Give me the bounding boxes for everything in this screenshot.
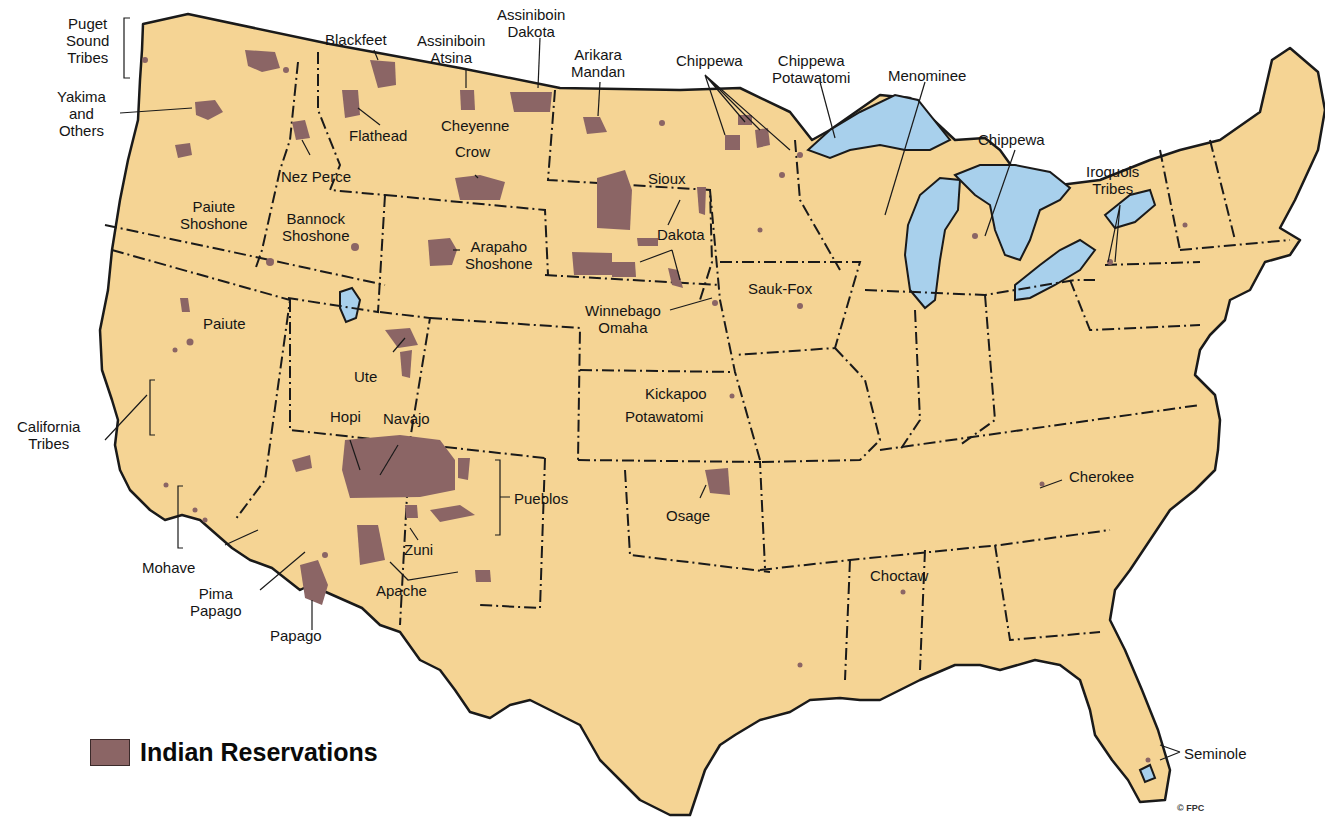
- reservation-rosebud: [612, 262, 636, 277]
- label-crow: Crow: [455, 143, 490, 160]
- label-pueblos: Pueblos: [514, 490, 568, 507]
- label-dakota: Dakota: [657, 226, 705, 243]
- label-seminole: Seminole: [1184, 745, 1247, 762]
- label-hopi: Hopi: [330, 408, 361, 425]
- label-choctaw: Choctaw: [870, 567, 928, 584]
- reservation-pine-ridge: [572, 252, 612, 275]
- label-chippewa-potawatomi: ChippewaPotawatomi: [772, 52, 850, 86]
- reservation-fort-peck: [510, 92, 552, 112]
- label-arikara-mandan: ArikaraMandan: [571, 46, 625, 80]
- label-bannock-shoshone: BannockShoshone: [282, 210, 350, 244]
- label-cherokee: Cherokee: [1069, 468, 1134, 485]
- label-nez-perce: Nez Perce: [281, 168, 351, 185]
- label-puget-sound-tribes: PugetSoundTribes: [66, 15, 109, 66]
- reservation-zuni: [405, 505, 418, 518]
- label-kickapoo: Kickapoo: [645, 385, 707, 402]
- label-chippewa-mn: Chippewa: [676, 52, 743, 69]
- label-assiniboin-dakota: AssiniboinDakota: [497, 6, 565, 40]
- label-ute: Ute: [354, 368, 377, 385]
- label-sauk-fox: Sauk-Fox: [748, 280, 812, 297]
- label-flathead: Flathead: [349, 127, 407, 144]
- reservation-crow-creek: [637, 238, 658, 246]
- label-california-tribes: CaliforniaTribes: [17, 418, 80, 452]
- label-winnebago-omaha: WinnebagoOmaha: [585, 302, 661, 336]
- label-paiute: Paiute: [203, 315, 246, 332]
- label-mohave: Mohave: [142, 559, 195, 576]
- legend-label: Indian Reservations: [140, 738, 378, 767]
- us-landmass: [100, 14, 1325, 815]
- label-blackfeet: Blackfeet: [325, 31, 387, 48]
- reservation-standing-rock: [597, 170, 632, 230]
- label-apache: Apache: [376, 582, 427, 599]
- label-menominee: Menominee: [888, 67, 966, 84]
- label-cheyenne: Cheyenne: [441, 117, 509, 134]
- reservation-chippewa-1: [725, 135, 740, 150]
- label-chippewa-mi: Chippewa: [978, 131, 1045, 148]
- reservation-flathead: [342, 90, 360, 118]
- copyright-notice: © FPC: [1177, 803, 1204, 813]
- label-pima-papago: PimaPapago: [190, 585, 242, 619]
- label-paiute-shoshone: PaiuteShoshone: [180, 198, 248, 232]
- label-osage: Osage: [666, 507, 710, 524]
- label-assiniboin-atsina: AssiniboinAtsina: [417, 32, 485, 66]
- label-zuni: Zuni: [404, 541, 433, 558]
- label-sioux: Sioux: [648, 170, 686, 187]
- legend-swatch-reservation: [90, 739, 130, 766]
- legend: Indian Reservations: [90, 738, 378, 767]
- label-yakima-and-others: YakimaandOthers: [57, 88, 106, 139]
- reservation-san-carlos: [475, 570, 491, 582]
- label-papago: Papago: [270, 627, 322, 644]
- label-navajo: Navajo: [383, 410, 430, 427]
- reservation-pueblos: [458, 458, 470, 480]
- reservation-fort-belknap: [460, 90, 475, 110]
- label-arapaho-shoshone: ArapahoShoshone: [465, 238, 533, 272]
- label-potawatomi: Potawatomi: [625, 408, 703, 425]
- label-iroquois-tribes: IroquoisTribes: [1086, 163, 1139, 197]
